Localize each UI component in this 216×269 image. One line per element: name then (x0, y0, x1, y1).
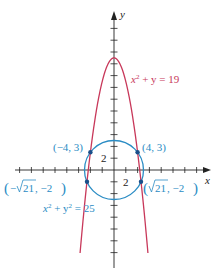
point-4-3 (135, 150, 139, 154)
svg-text:): ) (61, 180, 66, 197)
point-neg-sqrt21-neg2 (85, 180, 89, 184)
x-tick-label-2: 2 (123, 176, 129, 188)
svg-text:21: 21 (23, 182, 34, 194)
svg-text:(: ( (4, 180, 9, 197)
label-point-4-3: (4, 3) (142, 141, 166, 154)
x-axis-arrow-icon (203, 167, 211, 173)
parabola-equation-label: x2 + y = 19 (130, 73, 180, 85)
svg-text:21: 21 (155, 182, 166, 194)
label-point-sqrt21-neg2: ( 21 , −2 ) (143, 180, 198, 197)
circle-equation-label: x2 + y2 = 25 (42, 202, 95, 214)
svg-text:, −2: , −2 (35, 182, 52, 194)
y-axis-arrow-icon (111, 11, 117, 20)
svg-text:): ) (193, 180, 198, 197)
y-tick-label-2: 2 (101, 152, 107, 164)
y-axis-label: y (119, 8, 125, 20)
svg-text:(: ( (143, 180, 148, 197)
svg-text:−: − (10, 182, 16, 194)
y-axis: y 2 (101, 8, 125, 268)
system-of-equations-graph: x 2 y 2 (−4, 3) (4, 3) ( − 21 , −2 ) ( 2… (0, 0, 216, 269)
point-neg4-3 (88, 150, 92, 154)
x-axis-label: x (204, 174, 210, 186)
svg-text:, −2: , −2 (167, 182, 184, 194)
label-point-neg4-3: (−4, 3) (53, 141, 83, 154)
label-point-neg-sqrt21-neg2: ( − 21 , −2 ) (4, 180, 66, 197)
